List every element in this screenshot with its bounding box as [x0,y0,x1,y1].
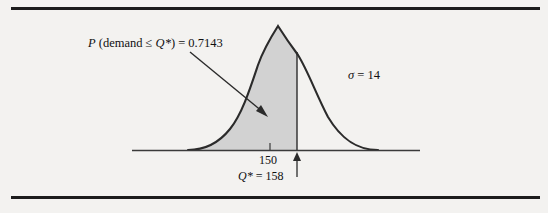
sigma-value-text: = 14 [354,68,380,82]
qstar-symbol: Q* [238,169,253,183]
qstar-value-text: = 158 [253,169,284,183]
probability-qstar-symbol: Q* [156,36,171,50]
qstar-annotation-label: Q* = 158 [238,170,283,182]
probability-p-symbol: P [88,36,96,50]
mean-tick-label: 150 [259,154,277,166]
probability-text: (demand ≤ [96,36,156,50]
sigma-annotation-label: σ = 14 [348,69,380,82]
bottom-divider-rule [11,196,540,199]
probability-value-text: ) = 0.7143 [171,36,223,50]
probability-annotation-label: P (demand ≤ Q*) = 0.7143 [88,37,223,50]
top-divider-rule [11,7,540,10]
qstar-pointer-arrowhead [293,152,301,161]
figure-page: P (demand ≤ Q*) = 0.7143 σ = 14 150 Q* =… [0,0,548,213]
